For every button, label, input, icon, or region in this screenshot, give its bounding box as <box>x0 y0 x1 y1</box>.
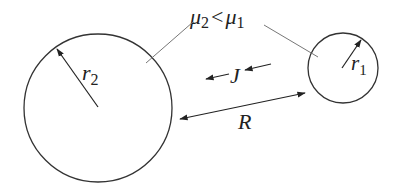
flux-label: J <box>230 63 241 88</box>
r1-subscript: 1 <box>359 62 367 78</box>
leader-line-to-small-circle <box>264 25 318 57</box>
mu1-subscript: 1 <box>237 14 245 31</box>
flux-arrow-right <box>245 64 271 70</box>
r1-label: r1 <box>351 51 367 78</box>
r2-label: r2 <box>82 60 99 88</box>
large-circle <box>24 34 172 182</box>
small-circle <box>308 33 378 103</box>
flux-arrow-left <box>206 74 229 79</box>
mu1-symbol: μ <box>224 4 236 29</box>
mu2-symbol: μ <box>189 4 201 29</box>
mobility-relation-label: μ2<μ1 <box>189 4 245 31</box>
mu2-subscript: 2 <box>201 14 209 31</box>
diagram-canvas: r2 r1 μ2<μ1 J R <box>0 0 401 194</box>
less-than-operator: < <box>211 4 223 29</box>
leader-line-to-large-circle <box>146 22 193 63</box>
r2-subscript: 2 <box>91 71 99 88</box>
distance-label: R <box>237 109 252 134</box>
two-spheres-diagram: r2 r1 μ2<μ1 J R <box>0 0 401 194</box>
